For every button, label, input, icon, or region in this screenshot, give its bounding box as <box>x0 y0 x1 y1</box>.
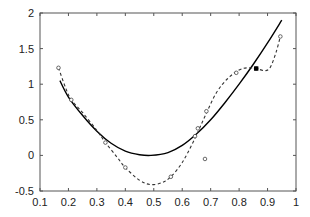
x-tick-label: 0.7 <box>203 196 218 208</box>
x-tick-label: 1 <box>293 196 299 208</box>
data-point-marker <box>69 98 73 102</box>
x-tick-label: 0.1 <box>32 196 47 208</box>
y-tick-label: -0.5 <box>15 185 34 197</box>
data-point-marker <box>193 134 197 138</box>
dashed-interpolant-curve <box>58 36 280 184</box>
line-chart: 0.10.20.30.40.50.60.70.80.91 -0.500.511.… <box>0 0 310 217</box>
y-tick-label: 0 <box>28 149 34 161</box>
y-axis: -0.500.511.52 <box>15 7 296 197</box>
sample-points <box>57 35 282 179</box>
x-tick-label: 0.2 <box>61 196 76 208</box>
y-tick-label: 1 <box>28 78 34 90</box>
x-tick-label: 0.5 <box>146 196 161 208</box>
data-point-marker <box>104 141 108 145</box>
data-point-marker <box>203 157 207 161</box>
y-tick-label: 2 <box>28 7 34 19</box>
y-tick-label: 0.5 <box>19 114 34 126</box>
y-tick-label: 1.5 <box>19 43 34 55</box>
highlight-marker <box>254 66 258 70</box>
data-point-marker <box>279 35 283 39</box>
x-axis: 0.10.20.30.40.50.60.70.80.91 <box>32 13 299 208</box>
data-point-marker <box>196 127 200 131</box>
data-point-marker <box>205 109 209 113</box>
series-layer <box>58 20 281 185</box>
x-tick-label: 0.9 <box>260 196 275 208</box>
plot-frame <box>40 13 296 191</box>
x-tick-label: 0.4 <box>118 196 133 208</box>
data-point-marker <box>169 175 173 179</box>
data-point-marker <box>124 166 128 170</box>
data-point-marker <box>234 71 238 75</box>
solid-fit-curve <box>60 20 282 155</box>
x-tick-label: 0.6 <box>175 196 190 208</box>
x-tick-label: 0.3 <box>89 196 104 208</box>
data-point-marker <box>57 66 61 70</box>
x-tick-label: 0.8 <box>231 196 246 208</box>
